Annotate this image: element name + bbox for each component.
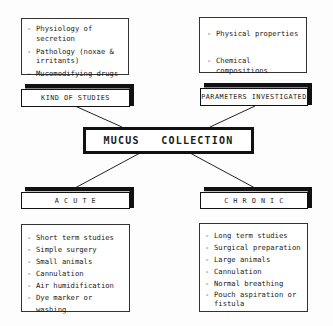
parameters-investigated-label: PARAMETERS INVESTIGATED [200,88,308,106]
list-item: Dye marker or washing [26,292,125,316]
mucus-collection-node: MUCUS COLLECTION [83,127,254,154]
list-item: Air humidification [26,280,125,292]
list-item: Normal breathing [204,278,303,290]
chronic-header: C H R O N I C [200,187,312,211]
parameters-list: Physical properties Chemical composition… [206,29,300,76]
list-item: Cannulation [26,268,125,280]
chronic-list: Long term studies Surgical preparation L… [204,230,303,308]
list-item: Small animals [26,256,125,268]
list-item: Surgical preparation [204,242,303,254]
list-item: Pathology (noxae & irritants) [26,48,124,65]
list-item: Physiology of secretion [26,24,124,44]
list-item: Simple surgery [26,244,125,256]
mucus-collection-label: MUCUS COLLECTION [104,135,234,146]
list-item: Pouch aspiration or fistula [204,290,303,308]
acute-label: A C U T E [21,192,130,209]
list-item: Chemical compositions [206,56,300,76]
acute-header: A C U T E [21,187,134,211]
parameters-investigated-header: PARAMETERS INVESTIGATED [200,83,312,108]
list-item: Large animals [204,254,303,266]
list-item: Cannulation [204,266,303,278]
kind-of-studies-list-box: Physiology of secretion Pathology (noxae… [21,18,129,75]
list-item: Physical properties [206,29,300,39]
kind-of-studies-list: Physiology of secretion Pathology (noxae… [26,24,124,79]
acute-list-box: Short term studies Simple surgery Small … [21,224,130,312]
list-item: Long term studies [204,230,303,242]
kind-of-studies-label: KIND OF STUDIES [21,89,130,107]
list-item: Mucomodifying drugs [26,69,124,79]
list-item: Short term studies [26,232,125,244]
chronic-list-box: Long term studies Surgical preparation L… [199,223,308,312]
acute-list: Short term studies Simple surgery Small … [26,232,125,316]
chronic-label: C H R O N I C [200,192,308,209]
parameters-list-box: Physical properties Chemical composition… [199,17,307,73]
kind-of-studies-header: KIND OF STUDIES [21,84,134,109]
